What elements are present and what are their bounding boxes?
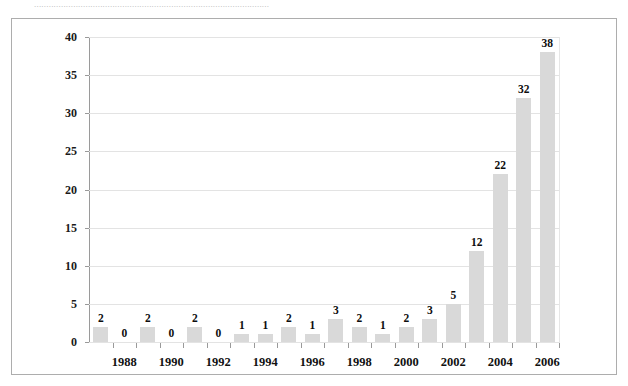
bar-value-label: 2 [98,312,104,324]
x-tick-mark [254,343,255,348]
bar [234,334,249,342]
bar [493,174,508,342]
x-axis-tick-label: 1994 [253,355,278,370]
x-tick-mark [536,343,537,348]
gridline [89,75,559,76]
bar [375,334,390,342]
figure-frame: 0510152025303540 19881990199219941996199… [11,18,617,375]
bar-value-label: 0 [121,327,127,339]
x-axis-tick-label: 1988 [112,355,137,370]
y-axis-tick-label: 0 [43,335,77,350]
gridline [89,113,559,114]
bar-value-label: 5 [450,289,456,301]
x-tick-mark [277,343,278,348]
bar-value-label: 2 [403,312,409,324]
y-axis-tick-label: 20 [43,182,77,197]
x-axis-tick-label: 2000 [394,355,419,370]
y-axis-tick-label: 30 [43,106,77,121]
x-tick-mark [442,343,443,348]
gridline [89,37,559,38]
bar-value-label: 2 [356,312,362,324]
bar-value-label: 3 [427,304,433,316]
bar-value-label: 0 [215,327,221,339]
bar-value-label: 1 [309,319,315,331]
bar-value-label: 1 [380,319,386,331]
bar-value-label: 0 [168,327,174,339]
bar-value-label: 2 [192,312,198,324]
x-tick-mark [371,343,372,348]
x-tick-mark [348,343,349,348]
bar [469,251,484,343]
gridline [89,151,559,152]
y-axis-tick-label: 35 [43,68,77,83]
bar [305,334,320,342]
y-axis-tick-label: 15 [43,220,77,235]
x-tick-mark [489,343,490,348]
x-tick-mark [512,343,513,348]
y-axis-tick-label: 5 [43,296,77,311]
x-tick-mark [559,343,560,348]
bar [281,327,296,342]
x-tick-mark [230,343,231,348]
bar-value-label: 2 [145,312,151,324]
x-tick-mark [301,343,302,348]
bar [446,304,461,342]
bar-value-label: 22 [495,159,507,171]
gridline [89,228,559,229]
x-axis-tick-label: 1992 [206,355,231,370]
bar [258,334,273,342]
x-tick-mark [113,343,114,348]
x-axis-tick-label: 1998 [347,355,372,370]
y-axis-tick-label: 25 [43,144,77,159]
bar [540,52,555,342]
x-tick-mark [465,343,466,348]
x-tick-mark [207,343,208,348]
bar-value-label: 1 [239,319,245,331]
bar [93,327,108,342]
y-axis-tick-label: 40 [43,30,77,45]
bar [422,319,437,342]
bar [328,319,343,342]
x-axis-tick-label: 2004 [488,355,513,370]
x-tick-mark [324,343,325,348]
x-tick-mark [136,343,137,348]
plot-right-border [559,37,560,343]
bar-value-label: 2 [286,312,292,324]
plot-area: 202020112132123512223238 [89,37,559,342]
gridline [89,304,559,305]
gridline [89,190,559,191]
bar [399,327,414,342]
bar-value-label: 1 [262,319,268,331]
figure-caption-cutoff: ........................................… [34,0,594,7]
bar [140,327,155,342]
bar-value-label: 38 [542,37,554,49]
bar [187,327,202,342]
bar-value-label: 12 [471,236,483,248]
bar [516,98,531,342]
x-axis-tick-label: 2006 [535,355,560,370]
x-axis-tick-label: 2002 [441,355,466,370]
x-tick-mark [418,343,419,348]
x-axis-tick-label: 1996 [300,355,325,370]
gridline [89,342,559,343]
gridline [89,266,559,267]
x-axis-tick-label: 1990 [159,355,184,370]
bar-value-label: 32 [518,83,530,95]
x-tick-mark [395,343,396,348]
bar-value-label: 3 [333,304,339,316]
y-axis-tick-label: 10 [43,258,77,273]
x-tick-mark [183,343,184,348]
x-tick-mark [160,343,161,348]
bar [352,327,367,342]
